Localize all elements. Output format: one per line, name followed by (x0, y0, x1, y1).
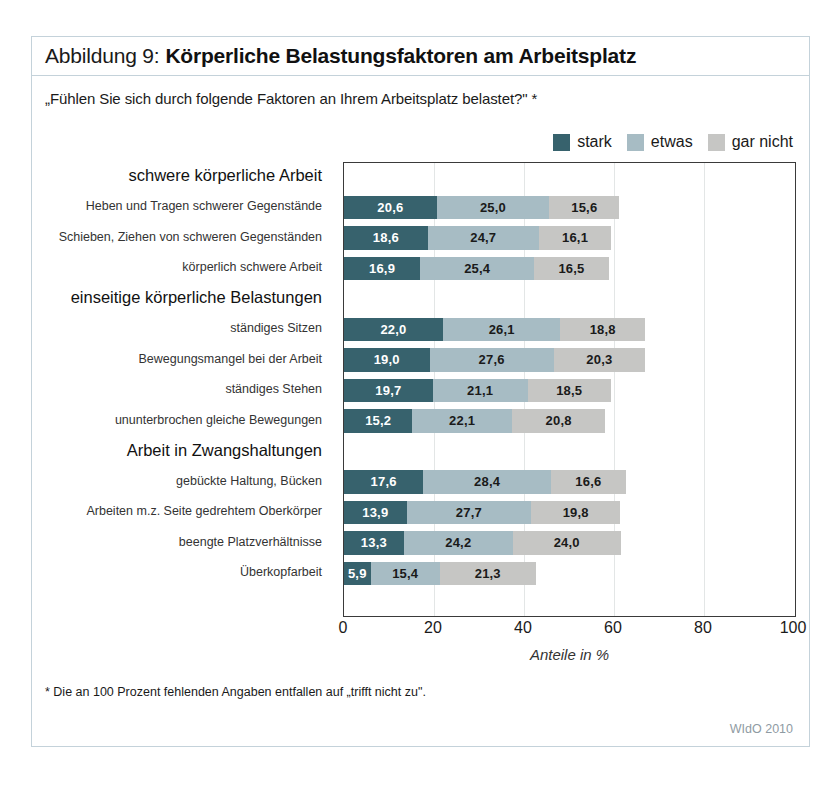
legend-label-gar: gar nicht (732, 133, 793, 151)
category-label: Schieben, Ziehen von schweren Gegenständ… (32, 225, 332, 249)
bar-row[interactable]: 13,927,719,8 (344, 501, 795, 525)
x-axis-tick: 100 (780, 619, 807, 637)
x-axis-tick: 40 (514, 619, 532, 637)
bar-segment-stark[interactable]: 18,6 (344, 226, 428, 250)
legend-swatch-stark (553, 134, 570, 151)
category-label: beengte Platzverhältnisse (32, 530, 332, 554)
bar-segment-etwas[interactable]: 25,0 (437, 196, 550, 220)
bar-segment-gar[interactable]: 18,8 (560, 318, 645, 342)
bar-rows: 20,625,015,618,624,716,116,925,416,522,0… (344, 163, 795, 616)
group-label: Arbeit in Zwangshaltungen (32, 439, 332, 463)
bar-segment-gar[interactable]: 21,3 (440, 562, 536, 586)
bar-row[interactable]: 20,625,015,6 (344, 196, 795, 220)
x-axis-tick: 20 (424, 619, 442, 637)
figure-container: Abbildung 9: Körperliche Belastungsfakto… (31, 36, 810, 747)
bar-segment-etwas[interactable]: 25,4 (420, 257, 534, 281)
category-label: ununterbrochen gleiche Bewegungen (32, 408, 332, 432)
bar-segment-stark[interactable]: 19,7 (344, 379, 433, 403)
bar-row[interactable]: 22,026,118,8 (344, 318, 795, 342)
bar-segment-stark[interactable]: 17,6 (344, 470, 423, 494)
figure-title-bar: Abbildung 9: Körperliche Belastungsfakto… (32, 37, 809, 76)
bar-segment-stark[interactable]: 16,9 (344, 257, 420, 281)
category-label: Heben und Tragen schwerer Gegenstände (32, 195, 332, 219)
legend-item-stark[interactable]: stark (553, 133, 612, 151)
figure-footnote: * Die an 100 Prozent fehlenden Angaben e… (45, 685, 426, 699)
bar-segment-stark[interactable]: 13,9 (344, 501, 407, 525)
figure-number: Abbildung 9: (45, 44, 159, 68)
bar-row[interactable]: 13,324,224,0 (344, 531, 795, 555)
bar-row[interactable]: 5,915,421,3 (344, 562, 795, 586)
page-title: Körperliche Belastungsfaktoren am Arbeit… (165, 44, 636, 68)
bar-segment-stark[interactable]: 15,2 (344, 409, 412, 433)
x-axis-tick: 80 (694, 619, 712, 637)
bar-segment-gar[interactable]: 20,8 (512, 409, 606, 433)
bar-segment-stark[interactable]: 19,0 (344, 348, 430, 372)
bar-segment-etwas[interactable]: 26,1 (443, 318, 560, 342)
bar-segment-etwas[interactable]: 22,1 (412, 409, 511, 433)
category-labels: schwere körperliche ArbeitHeben und Trag… (32, 162, 332, 617)
bar-segment-gar[interactable]: 19,8 (531, 501, 620, 525)
legend-item-etwas[interactable]: etwas (627, 133, 693, 151)
legend-label-etwas: etwas (651, 133, 693, 151)
bar-row[interactable]: 19,721,118,5 (344, 379, 795, 403)
group-label: einseitige körperliche Belastungen (32, 286, 332, 310)
bar-segment-etwas[interactable]: 28,4 (423, 470, 551, 494)
bar-row[interactable]: 17,628,416,6 (344, 470, 795, 494)
bar-segment-gar[interactable]: 16,6 (551, 470, 626, 494)
bar-segment-etwas[interactable]: 24,2 (404, 531, 513, 555)
plot-area: 20,625,015,618,624,716,116,925,416,522,0… (343, 162, 796, 617)
bar-segment-etwas[interactable]: 27,7 (407, 501, 532, 525)
category-label: Überkopfarbeit (32, 561, 332, 585)
category-label: ständiges Sitzen (32, 317, 332, 341)
legend-item-gar[interactable]: gar nicht (708, 133, 793, 151)
figure-source: WIdO 2010 (730, 722, 793, 736)
group-label: schwere körperliche Arbeit (32, 164, 332, 188)
category-label: körperlich schwere Arbeit (32, 256, 332, 280)
category-label: Bewegungsmangel bei der Arbeit (32, 347, 332, 371)
chart-legend: starketwasgar nicht (553, 133, 793, 151)
bar-segment-etwas[interactable]: 24,7 (428, 226, 539, 250)
bar-segment-stark[interactable]: 13,3 (344, 531, 404, 555)
x-axis-tick: 60 (604, 619, 622, 637)
bar-segment-stark[interactable]: 22,0 (344, 318, 443, 342)
bar-segment-etwas[interactable]: 27,6 (430, 348, 554, 372)
bar-segment-gar[interactable]: 20,3 (554, 348, 645, 372)
bar-row[interactable]: 15,222,120,8 (344, 409, 795, 433)
bar-segment-stark[interactable]: 20,6 (344, 196, 437, 220)
bar-segment-etwas[interactable]: 15,4 (371, 562, 440, 586)
bar-segment-stark[interactable]: 5,9 (344, 562, 371, 586)
legend-label-stark: stark (577, 133, 612, 151)
x-axis-tick: 0 (339, 619, 348, 637)
bar-segment-gar[interactable]: 16,5 (534, 257, 608, 281)
x-axis-title: Anteile in % (343, 646, 796, 663)
bar-segment-gar[interactable]: 16,1 (539, 226, 611, 250)
category-label: gebückte Haltung, Bücken (32, 469, 332, 493)
x-axis: 020406080100 (343, 619, 796, 645)
bar-row[interactable]: 18,624,716,1 (344, 226, 795, 250)
bar-segment-gar[interactable]: 18,5 (528, 379, 611, 403)
figure-subtitle: „Fühlen Sie sich durch folgende Faktoren… (45, 90, 809, 107)
category-label: Arbeiten m.z. Seite gedrehtem Oberkörper (32, 500, 332, 524)
bar-row[interactable]: 16,925,416,5 (344, 257, 795, 281)
bar-segment-gar[interactable]: 24,0 (513, 531, 621, 555)
bar-row[interactable]: 19,027,620,3 (344, 348, 795, 372)
legend-swatch-gar (708, 134, 725, 151)
legend-swatch-etwas (627, 134, 644, 151)
chart-area: schwere körperliche ArbeitHeben und Trag… (32, 162, 809, 632)
category-label: ständiges Stehen (32, 378, 332, 402)
bar-segment-gar[interactable]: 15,6 (549, 196, 619, 220)
bar-segment-etwas[interactable]: 21,1 (433, 379, 528, 403)
